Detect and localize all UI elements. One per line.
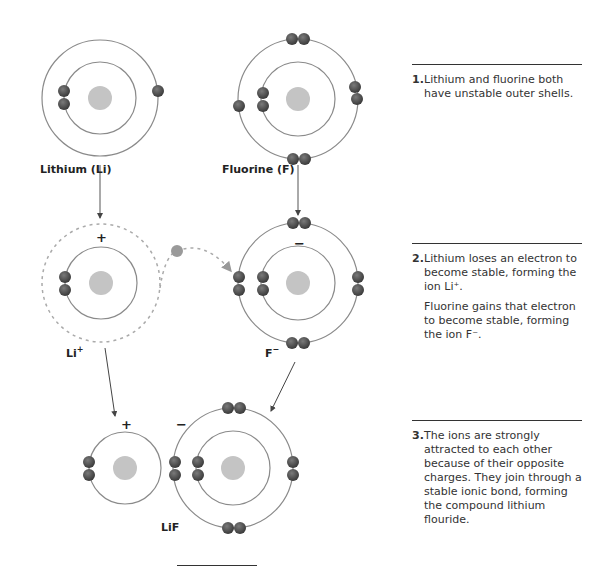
label-f-ion: F−: [265, 345, 279, 360]
lif-fluoride-ion: [169, 402, 299, 534]
charge-minus-f-ion: −: [294, 236, 305, 251]
fluorine-atom: [233, 33, 363, 165]
lif-lithium-ion: [83, 432, 161, 504]
arrow-li-ion-down: [105, 348, 115, 416]
lithium-atom: [42, 40, 164, 156]
step-divider: [412, 243, 582, 244]
label-fluorine: Fluorine (F): [222, 163, 295, 176]
step-divider: [412, 420, 582, 421]
step-extra-text: Fluorine gains that electron to become s…: [424, 300, 582, 342]
step-text: Lithium and fluorine both have unstable …: [424, 73, 582, 101]
step-number: 1.: [412, 73, 424, 101]
step-3: 3. The ions are strongly attracted to ea…: [412, 420, 582, 527]
step-number: 2.: [412, 252, 424, 294]
arrow-f-ion-down: [271, 362, 295, 411]
step-text: Lithium loses an electron to become stab…: [424, 252, 582, 294]
step-2: 2. Lithium loses an electron to become s…: [412, 243, 582, 342]
bottom-divider: [177, 565, 257, 566]
electron-transfer-path: [160, 248, 230, 288]
step-text: The ions are strongly attracted to each …: [424, 429, 582, 527]
label-compound: LiF: [161, 521, 179, 534]
step-divider: [412, 64, 582, 65]
step-1: 1. Lithium and fluorine both have unstab…: [412, 64, 582, 101]
transferred-electron: [171, 245, 183, 257]
charge-plus-li-ion: +: [96, 230, 107, 245]
label-lithium: Lithium (Li): [40, 163, 112, 176]
label-li-ion: Li+: [66, 345, 83, 360]
step-number: 3.: [412, 429, 424, 527]
charge-plus-lif: +: [121, 417, 132, 432]
charge-minus-lif: −: [176, 417, 187, 432]
